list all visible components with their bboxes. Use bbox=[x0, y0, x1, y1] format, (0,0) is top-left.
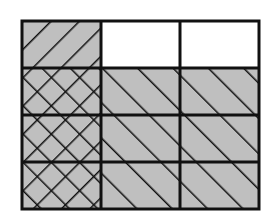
fraction-area-model bbox=[0, 0, 276, 213]
cell-col2-back-hatch bbox=[180, 68, 259, 209]
cell-col1-back-hatch bbox=[101, 68, 180, 209]
cell-r0-c0-hatch bbox=[22, 21, 101, 68]
cell-col0-back-hatch bbox=[22, 68, 101, 209]
cell-r0-c2 bbox=[180, 21, 259, 68]
cell-r0-c1 bbox=[101, 21, 180, 68]
